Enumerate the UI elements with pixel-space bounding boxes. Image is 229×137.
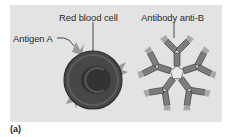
antibody-anti-b-icon — [136, 35, 219, 114]
label-red-blood-cell: Red blood cell — [59, 12, 118, 23]
label-antigen-a: Antigen A — [13, 33, 53, 44]
antigen-leader-line — [57, 38, 74, 46]
panel-label: (a) — [10, 124, 21, 134]
label-antibody-anti-b: Antibody anti-B — [141, 12, 204, 23]
red-blood-cell-icon — [64, 51, 122, 109]
